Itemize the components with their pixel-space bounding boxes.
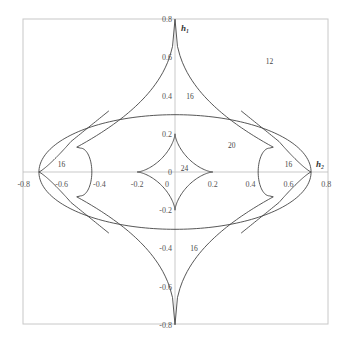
- region-label: 20: [228, 141, 236, 150]
- outer-side-branch-0: [241, 111, 311, 172]
- y-tick-label: 0.2: [162, 130, 172, 139]
- plot-frame: [23, 19, 328, 324]
- y-tick-label: 0.8: [162, 15, 172, 24]
- region-label: 12: [266, 57, 274, 66]
- x-tick-label: -0.2: [131, 180, 144, 189]
- x-tick-label: 0.8: [321, 180, 331, 189]
- region-label: 16: [58, 160, 66, 169]
- region-label: 24: [181, 164, 189, 173]
- phase-diagram: -0.8-0.6-0.4-0.20.20.40.60.80.80.60.40.2…: [0, 0, 347, 341]
- region-label: 16: [186, 92, 194, 101]
- y-tick-label: 0: [168, 168, 172, 177]
- x-tick-label: 0.4: [246, 180, 256, 189]
- region-label: 16: [190, 244, 198, 253]
- y-tick-label: 0.4: [162, 92, 172, 101]
- outer-curve-quadrant-1: [77, 19, 175, 172]
- y-axis-label: h₁: [181, 23, 189, 33]
- outer-side-branch-1: [39, 111, 109, 172]
- region-label: 16: [285, 160, 293, 169]
- y-tick-label: -0.6: [159, 283, 172, 292]
- x-tick-label: -0.6: [55, 180, 68, 189]
- x-tick-label: 0.2: [208, 180, 218, 189]
- x-axis-label: h₂: [316, 159, 324, 169]
- y-tick-label: -0.4: [159, 244, 172, 253]
- origin-label: 0: [165, 180, 169, 189]
- x-tick-label: -0.8: [17, 180, 30, 189]
- y-tick-label: 0.6: [162, 53, 172, 62]
- x-tick-label: -0.4: [93, 180, 106, 189]
- tick-labels: -0.8-0.6-0.4-0.20.20.40.60.80.80.60.40.2…: [17, 15, 331, 330]
- x-tick-label: 0.6: [283, 180, 293, 189]
- y-tick-label: -0.8: [159, 321, 172, 330]
- y-tick-label: -0.2: [159, 206, 172, 215]
